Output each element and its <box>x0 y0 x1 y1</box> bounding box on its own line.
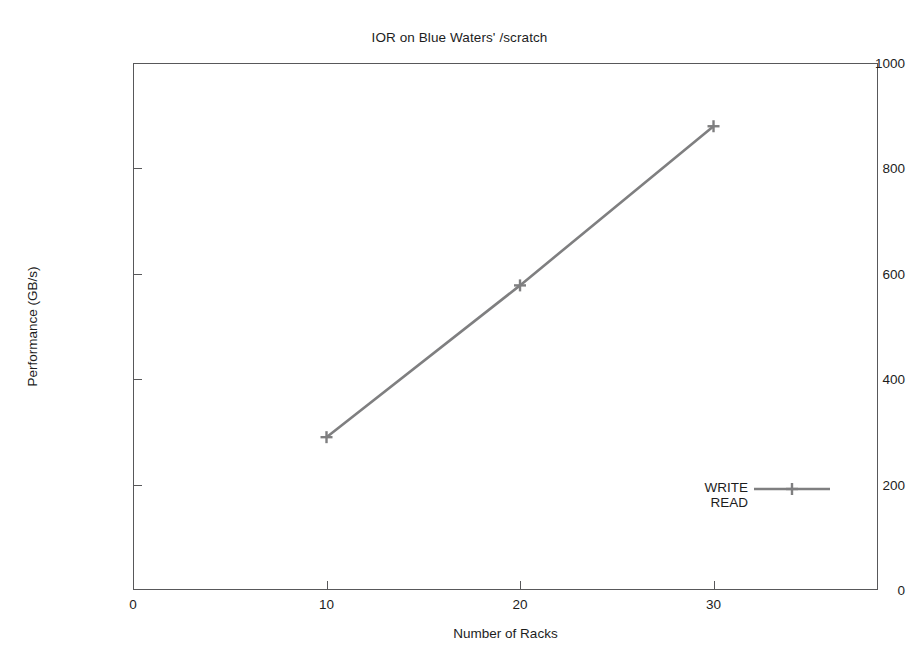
y-tick-mark <box>133 274 142 275</box>
y-tick-mark <box>133 485 142 486</box>
x-tick-label: 20 <box>512 597 527 612</box>
legend-line-sample <box>752 480 832 496</box>
y-tick-label: 800 <box>801 161 919 176</box>
x-tick-label: 30 <box>706 597 721 612</box>
chart-legend: WRITEREAD <box>600 480 850 522</box>
y-axis-title: Performance (GB/s) <box>25 232 40 422</box>
y-tick-mark <box>133 168 142 169</box>
x-axis-title: Number of Racks <box>133 626 878 641</box>
y-tick-label: 600 <box>801 266 919 281</box>
y-tick-label: 0 <box>801 583 919 598</box>
x-tick-label: 10 <box>319 597 334 612</box>
chart-title: IOR on Blue Waters' /scratch <box>0 30 919 45</box>
x-tick-mark <box>714 581 715 590</box>
y-tick-mark <box>133 379 142 380</box>
legend-label: READ <box>600 495 748 511</box>
x-tick-label: 0 <box>129 597 137 612</box>
x-tick-mark <box>327 581 328 590</box>
legend-label: WRITE <box>600 480 748 496</box>
legend-entry-read[interactable]: READ <box>600 495 850 511</box>
y-tick-label: 400 <box>801 372 919 387</box>
x-tick-mark <box>520 581 521 590</box>
y-tick-label: 1000 <box>801 56 919 71</box>
legend-entry-write[interactable]: WRITE <box>600 480 850 496</box>
chart-figure: IOR on Blue Waters' /scratch 10008006004… <box>0 0 919 669</box>
